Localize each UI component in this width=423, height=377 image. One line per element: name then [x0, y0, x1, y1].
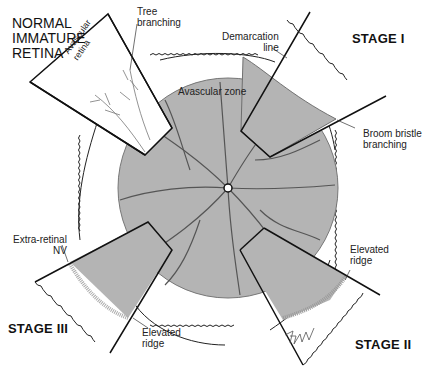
- label-avascular-zone: Avascular zone: [178, 86, 246, 97]
- optic-disc: [224, 184, 232, 192]
- rop-diagram: NORMAL IMMATURE RETINA Tree branching Av…: [0, 0, 423, 377]
- label-tree-branching: Tree branching: [137, 6, 181, 28]
- label-elevated-ridge-stage-3: Elevated ridge: [142, 327, 181, 349]
- label-broom-bristle-branching: Broom bristle branching: [363, 128, 422, 150]
- stage-3-title: STAGE III: [8, 321, 68, 336]
- stage-2-title: STAGE II: [355, 337, 411, 352]
- stage-1-title: STAGE I: [352, 31, 404, 46]
- label-elevated-ridge-stage-2: Elevated ridge: [350, 244, 389, 266]
- label-extra-retinal-nv: Extra-retinal NV: [13, 234, 67, 256]
- label-demarcation-line: Demarcation line: [222, 31, 279, 53]
